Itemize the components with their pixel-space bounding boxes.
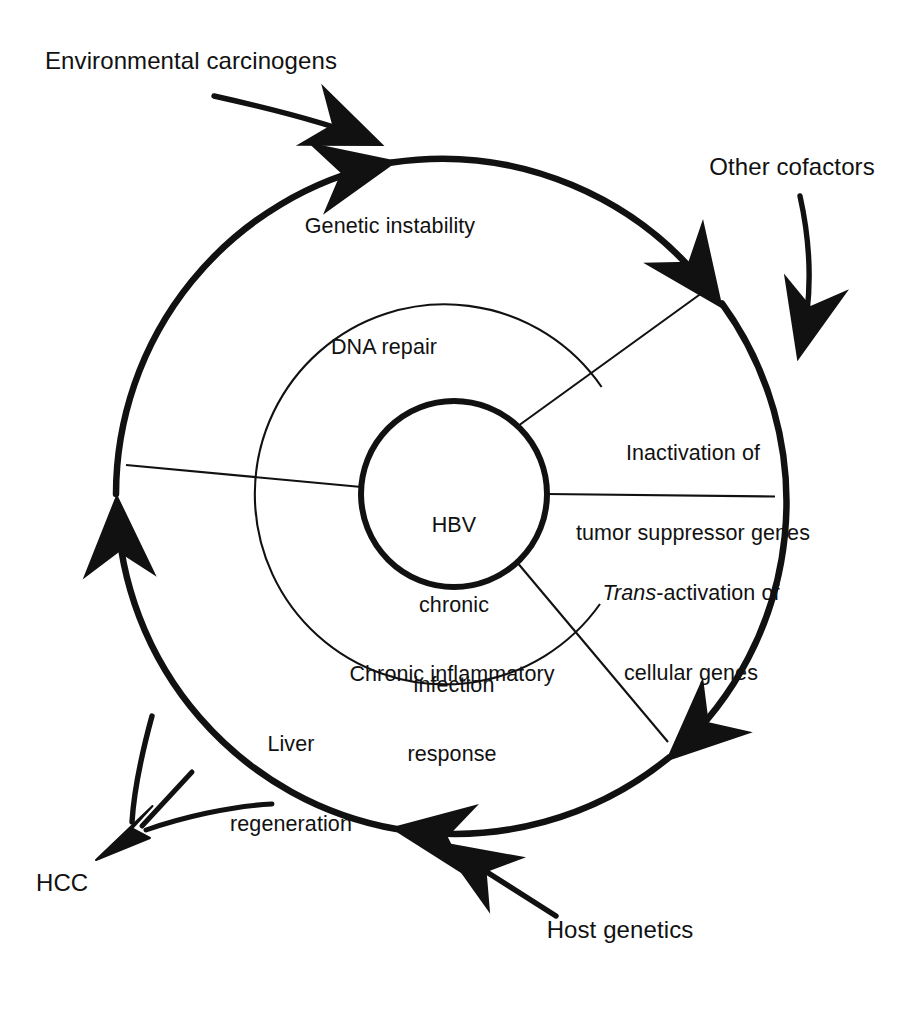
label-core-hbv-chronic-infection: HBV chronic infection xyxy=(374,459,534,752)
hcc-stroke-upper xyxy=(132,716,152,822)
label-other-cofactors: Other cofactors xyxy=(672,152,912,182)
arrow-other-cofactors xyxy=(800,196,809,346)
label-liver-regeneration-line2: regeneration xyxy=(186,811,396,838)
diagram-canvas: Environmental carcinogens Other cofactor… xyxy=(0,0,912,1018)
label-host-genetics: Host genetics xyxy=(500,915,740,945)
label-genetic-instability: Genetic instability xyxy=(230,213,550,240)
label-trans-activation-line1: Trans-activation of xyxy=(556,580,826,607)
label-trans-activation-line2: cellular genes xyxy=(556,660,826,687)
label-dna-repair: DNA repair xyxy=(264,334,504,361)
label-core-line3: infection xyxy=(374,672,534,699)
label-trans-italic: Trans xyxy=(602,581,656,605)
label-liver-regeneration-line1: Liver xyxy=(186,731,396,758)
label-tumor-suppressor-line1: Inactivation of xyxy=(552,440,834,467)
arrow-environmental-carcinogens xyxy=(214,96,370,140)
label-liver-regeneration: Liver regeneration xyxy=(186,678,396,891)
arrow-host-genetics xyxy=(452,850,556,916)
label-core-line1: HBV xyxy=(374,512,534,539)
label-environmental-carcinogens: Environmental carcinogens xyxy=(16,46,366,76)
label-hcc: HCC xyxy=(36,868,176,898)
hcc-arrowhead xyxy=(96,806,153,860)
label-core-line2: chronic xyxy=(374,592,534,619)
label-trans-activation-of-cellular-genes: Trans-activation of cellular genes xyxy=(556,527,826,740)
spoke-left xyxy=(126,465,362,487)
label-trans-rest: -activation of xyxy=(656,581,779,605)
